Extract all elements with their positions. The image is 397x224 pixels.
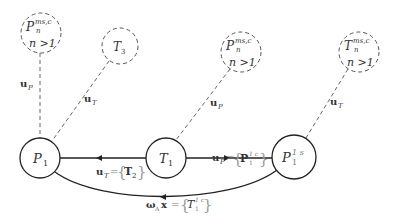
- svg-text:x: x: [161, 199, 168, 210]
- svg-text:A: A: [154, 205, 160, 212]
- edge-label-ut-right: u T: [330, 96, 344, 110]
- arrow-head-icon: [96, 155, 102, 161]
- node-pn-mid-sup: ms,c: [235, 37, 251, 45]
- node-t1-sub: 1: [168, 159, 173, 168]
- svg-text:T: T: [338, 102, 344, 110]
- svg-text:P: P: [219, 158, 225, 166]
- node-p1-sub: 1: [43, 159, 48, 168]
- svg-text:}: }: [259, 150, 269, 168]
- svg-text:u: u: [84, 93, 91, 104]
- svg-text:P: P: [240, 152, 248, 165]
- node-pn-mid-cond: n >1: [229, 56, 256, 69]
- svg-text:u: u: [96, 166, 103, 177]
- svg-text:P: P: [217, 103, 223, 111]
- node-pn-left-cond: n >1: [29, 37, 56, 50]
- node-p1s-label: P: [281, 150, 291, 165]
- node-p1s-sup: 1 s: [292, 148, 304, 157]
- edge-label-t1-p1s: u P = { P 1 c 1 }: [212, 150, 269, 168]
- node-t1[interactable]: T 1: [146, 138, 186, 178]
- svg-text:}: }: [203, 196, 213, 214]
- node-t3-sub: 3: [121, 48, 125, 56]
- node-p1[interactable]: P 1: [20, 138, 60, 178]
- node-p1s-sub: 1: [292, 158, 297, 167]
- node-pn-mid-label: P: [225, 39, 235, 53]
- svg-text:u: u: [330, 96, 337, 107]
- node-pn-mid-sub: n: [236, 46, 241, 54]
- node-tn-right-sup: ms,c: [353, 37, 369, 45]
- node-tn-right[interactable]: T ms,c n n >1: [339, 32, 379, 72]
- node-pn-left[interactable]: P ms,c n n >1: [21, 13, 61, 53]
- svg-text:1 c: 1 c: [249, 150, 259, 157]
- node-pn-left-label: P: [25, 20, 35, 34]
- svg-text:1: 1: [195, 205, 199, 212]
- diagram-canvas: P 1 T 1 P 1 s 1 P ms,c n n >1 T 3 P ms,c…: [0, 0, 397, 224]
- svg-text:1: 1: [249, 159, 253, 166]
- node-pn-mid[interactable]: P ms,c n n >1: [221, 32, 261, 72]
- node-tn-right-cond: n >1: [347, 56, 374, 69]
- node-p1s[interactable]: P 1 s 1: [272, 135, 316, 179]
- diagram: P 1 T 1 P 1 s 1 P ms,c n n >1 T 3 P ms,c…: [0, 0, 397, 224]
- edge-label-up-left: u P: [20, 78, 33, 92]
- svg-text:u: u: [210, 97, 217, 108]
- svg-text:T: T: [92, 99, 98, 107]
- svg-text:u: u: [212, 152, 219, 163]
- node-tn-right-sub: n: [354, 46, 359, 54]
- node-pn-left-sup: ms,c: [35, 18, 51, 26]
- node-t3[interactable]: T 3: [102, 28, 138, 64]
- edge-label-ut-t3: u T: [84, 93, 98, 107]
- edge-label-p1-t1: u T = { T 2 }: [96, 163, 147, 181]
- node-tn-right-label: T: [344, 39, 353, 53]
- svg-text:}: }: [137, 163, 147, 181]
- edge-ut-t3: [52, 61, 109, 141]
- svg-text:u: u: [20, 78, 27, 89]
- edge-label-p1s-p1: ω A x = { T 1 c 1 }: [146, 196, 213, 214]
- edge-label-up-mid: u P: [210, 97, 223, 111]
- node-pn-left-sub: n: [36, 27, 41, 35]
- svg-text:2: 2: [132, 172, 136, 180]
- svg-text:P: P: [27, 84, 33, 92]
- node-p1-label: P: [32, 151, 42, 166]
- svg-text:=: =: [171, 199, 179, 210]
